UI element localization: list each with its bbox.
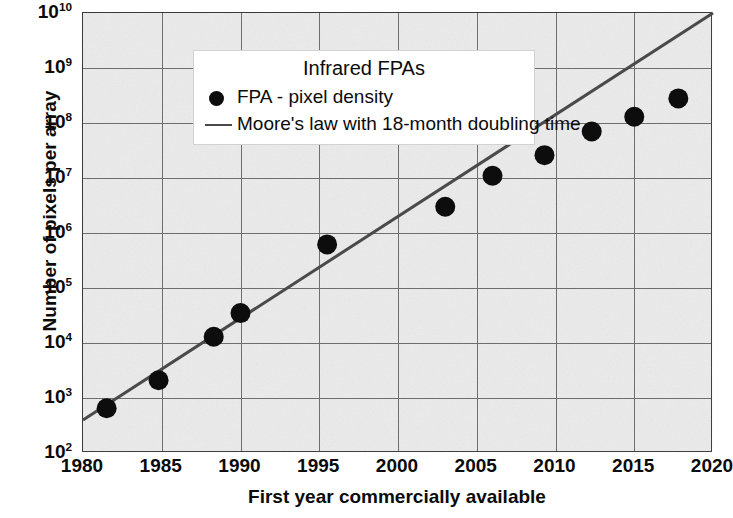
x-tick-label: 1990 <box>218 456 260 475</box>
data-point <box>668 88 688 108</box>
data-point <box>582 122 602 142</box>
data-point <box>97 398 117 418</box>
data-point <box>317 234 337 254</box>
circle-marker-icon <box>204 87 234 107</box>
y-tick-label: 105 <box>44 277 78 296</box>
legend-entry-moores-law: Moore's law with 18-month doubling time <box>204 110 524 137</box>
data-point <box>149 370 169 390</box>
y-tick-label: 1010 <box>38 2 78 21</box>
y-tick-label: 106 <box>44 222 78 241</box>
line-marker-icon <box>204 114 234 134</box>
x-tick-label: 2020 <box>691 456 733 475</box>
data-point <box>435 197 455 217</box>
y-tick-label: 108 <box>44 112 78 131</box>
data-point <box>483 166 503 186</box>
legend-label-moores-law: Moore's law with 18-month doubling time <box>237 113 581 135</box>
legend-label-fpa-pixel-density: FPA - pixel density <box>237 86 393 108</box>
data-point <box>624 107 644 127</box>
legend-box: Infrared FPAs FPA - pixel density Moore'… <box>193 50 535 145</box>
x-axis-tick-labels: 198019851990199520002005201020152020 <box>82 456 712 486</box>
plot-area: Infrared FPAs FPA - pixel density Moore'… <box>82 12 712 452</box>
y-tick-label: 103 <box>44 387 78 406</box>
x-tick-label: 1980 <box>61 456 103 475</box>
y-axis-tick-labels: 1021031041051061071081091010 <box>0 12 78 452</box>
x-tick-label: 2015 <box>612 456 654 475</box>
x-tick-label: 1995 <box>297 456 339 475</box>
data-point <box>534 145 554 165</box>
x-tick-label: 2000 <box>376 456 418 475</box>
x-tick-label: 1985 <box>140 456 182 475</box>
data-point <box>204 327 224 347</box>
y-tick-label: 109 <box>44 57 78 76</box>
data-point <box>231 303 251 323</box>
legend-title: Infrared FPAs <box>204 57 524 80</box>
y-tick-label: 104 <box>44 332 78 351</box>
x-tick-label: 2005 <box>455 456 497 475</box>
legend-entry-fpa-pixel-density: FPA - pixel density <box>204 83 524 110</box>
y-tick-label: 107 <box>44 167 78 186</box>
x-tick-label: 2010 <box>533 456 575 475</box>
x-axis-title: First year commercially available <box>82 486 712 508</box>
